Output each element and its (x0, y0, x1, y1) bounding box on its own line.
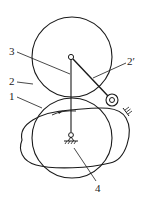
diagram-canvas: 3 2 1 2′ 4 (0, 0, 145, 202)
roller-inner-icon (110, 98, 115, 103)
label-4: 4 (95, 182, 101, 194)
label-2: 2 (9, 75, 15, 87)
follower-arm (73, 59, 108, 96)
top-pivot-icon (68, 54, 73, 59)
label-3: 3 (9, 45, 15, 57)
leader-1 (17, 97, 42, 108)
cam-profile (21, 108, 130, 168)
leader-2p (93, 63, 126, 78)
leader-2 (17, 82, 33, 84)
leader-3 (17, 52, 70, 74)
ground-hatch-right-icon (125, 107, 132, 114)
cam-mechanism-diagram: 3 2 1 2′ 4 (0, 0, 145, 202)
label-1: 1 (9, 90, 15, 102)
label-2-prime: 2′ (127, 55, 135, 67)
pivot-support (68, 137, 74, 141)
